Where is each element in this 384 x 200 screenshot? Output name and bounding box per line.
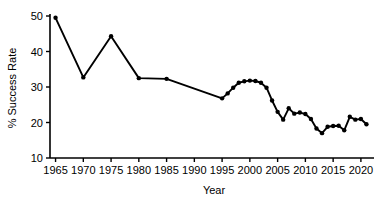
- data-point: [220, 96, 224, 100]
- data-point: [348, 115, 352, 119]
- series-line-success-rate: [56, 18, 367, 133]
- y-tick-label: 50: [31, 10, 43, 22]
- series-markers-success-rate: [53, 16, 368, 136]
- y-tick-label: 30: [31, 81, 43, 93]
- data-point: [298, 110, 302, 114]
- x-tick-label: 1985: [154, 164, 178, 176]
- x-tick-label: 1965: [43, 164, 67, 176]
- data-point: [248, 78, 252, 82]
- axis-tick-marks: [46, 16, 361, 162]
- data-point: [53, 16, 57, 20]
- axis-lines: [50, 14, 374, 158]
- data-point: [231, 86, 235, 90]
- x-tick-label: 2020: [349, 164, 373, 176]
- data-point: [287, 106, 291, 110]
- x-tick-label: 1995: [210, 164, 234, 176]
- data-point: [364, 122, 368, 126]
- data-point: [237, 81, 241, 85]
- y-tick-label: 20: [31, 117, 43, 129]
- data-point: [292, 111, 296, 115]
- data-point: [320, 131, 324, 135]
- data-point: [137, 76, 141, 80]
- data-point: [270, 98, 274, 102]
- data-point: [109, 34, 113, 38]
- x-tick-label: 1970: [71, 164, 95, 176]
- x-axis-tick-labels: 1965197019751980198519901995200020052010…: [43, 164, 373, 176]
- data-point: [342, 128, 346, 132]
- x-tick-label: 2015: [321, 164, 345, 176]
- line-chart-figure: 1020304050 19651970197519801985199019952…: [0, 0, 384, 200]
- data-point: [281, 117, 285, 121]
- x-tick-label: 2000: [238, 164, 262, 176]
- data-point: [259, 81, 263, 85]
- y-axis-tick-labels: 1020304050: [31, 10, 43, 164]
- data-point: [353, 117, 357, 121]
- y-axis-title: % Success Rate: [6, 48, 18, 129]
- data-point: [242, 79, 246, 83]
- data-point: [314, 126, 318, 130]
- data-point: [225, 91, 229, 95]
- x-tick-label: 1975: [99, 164, 123, 176]
- data-point: [164, 77, 168, 81]
- data-point: [309, 117, 313, 121]
- x-tick-label: 2005: [265, 164, 289, 176]
- y-tick-label: 10: [31, 152, 43, 164]
- data-point: [325, 125, 329, 129]
- data-point: [264, 86, 268, 90]
- x-axis-title: Year: [203, 184, 226, 196]
- chart-canvas: 1020304050 19651970197519801985199019952…: [0, 0, 384, 200]
- data-point: [336, 123, 340, 127]
- x-tick-label: 2010: [293, 164, 317, 176]
- data-point: [359, 117, 363, 121]
- data-point: [331, 124, 335, 128]
- data-point: [275, 110, 279, 114]
- x-tick-label: 1990: [182, 164, 206, 176]
- x-tick-label: 1980: [127, 164, 151, 176]
- data-point: [303, 112, 307, 116]
- data-point: [81, 75, 85, 79]
- y-tick-label: 40: [31, 46, 43, 58]
- data-point: [253, 79, 257, 83]
